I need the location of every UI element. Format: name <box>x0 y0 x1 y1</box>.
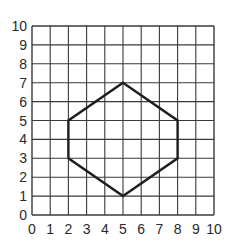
coordinate-grid-diagram: 012345678910 012345678910 <box>0 0 228 250</box>
y-tick-label: 9 <box>19 37 27 53</box>
y-tick-label: 8 <box>19 56 27 72</box>
x-tick-label: 3 <box>83 221 91 237</box>
x-tick-label: 5 <box>119 221 127 237</box>
y-tick-label: 3 <box>19 150 27 166</box>
x-tick-label: 4 <box>101 221 109 237</box>
x-tick-label: 10 <box>206 221 222 237</box>
x-tick-label: 6 <box>137 221 145 237</box>
x-tick-label: 0 <box>28 221 36 237</box>
y-tick-label: 4 <box>19 131 27 147</box>
y-tick-label: 10 <box>11 18 27 34</box>
y-tick-label: 1 <box>19 188 27 204</box>
x-axis-labels: 012345678910 <box>28 221 222 237</box>
x-tick-label: 2 <box>65 221 73 237</box>
y-tick-label: 2 <box>19 169 27 185</box>
y-tick-label: 5 <box>19 113 27 129</box>
x-tick-label: 7 <box>156 221 164 237</box>
x-tick-label: 1 <box>46 221 54 237</box>
grid-lines <box>32 26 214 215</box>
y-tick-label: 0 <box>19 207 27 223</box>
x-tick-label: 9 <box>192 221 200 237</box>
y-tick-label: 7 <box>19 75 27 91</box>
x-tick-label: 8 <box>174 221 182 237</box>
y-axis-labels: 012345678910 <box>11 18 27 223</box>
y-tick-label: 6 <box>19 94 27 110</box>
